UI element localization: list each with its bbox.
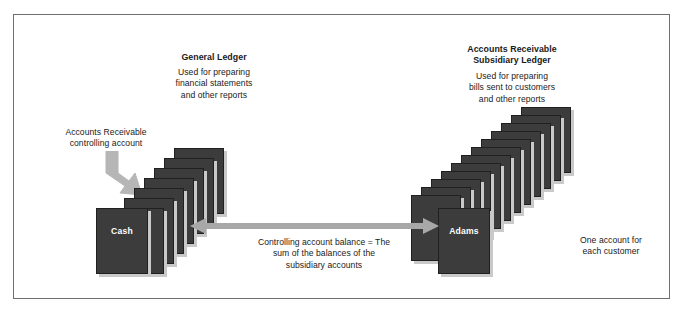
arrow-shaft (204, 223, 428, 229)
ledger-relationship-diagram: General Ledger Used for preparing financ… (0, 0, 683, 312)
subsidiary-ledger-title: Accounts Receivable Subsidiary Ledger (414, 44, 610, 67)
general-ledger-description: Used for preparing financial statements … (132, 67, 296, 101)
subsidiary-ledger-description: Used for preparing bills sent to custome… (414, 71, 610, 105)
arrow-head-right-icon (423, 218, 439, 234)
diagram-frame: General Ledger Used for preparing financ… (13, 14, 670, 299)
general-ledger-title: General Ledger (132, 52, 296, 63)
cash-card-label: Cash (97, 226, 147, 236)
adams-card-label: Adams (439, 226, 489, 236)
ledger-card-front-adams: Adams (438, 208, 490, 274)
controlling-account-callout-label: Accounts Receivable controlling account (36, 127, 176, 150)
ledger-card-front-cash: Cash (96, 208, 148, 274)
one-account-per-customer-note: One account for each customer (556, 235, 666, 258)
controlling-balance-equation-label: Controlling account balance = The sum of… (226, 237, 422, 271)
